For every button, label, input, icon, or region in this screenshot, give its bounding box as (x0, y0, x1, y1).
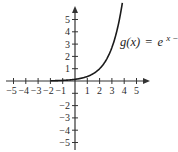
y-tick-label: 1 (65, 63, 70, 74)
y-tick-label: −5 (59, 137, 70, 148)
y-tick-label: 2 (65, 51, 70, 62)
x-tick-label: 5 (134, 85, 139, 96)
x-tick-label: −5 (6, 85, 17, 96)
x-tick-label: −4 (18, 85, 29, 96)
x-tick-label: 3 (109, 85, 114, 96)
x-tick-label: 4 (122, 85, 127, 96)
x-tick-label: 2 (97, 85, 102, 96)
exponential-curve (50, 3, 122, 81)
function-graph: −5−4−3−2−112345−5−4−3−212345 g(x) = e x … (0, 0, 178, 152)
x-tick-label: −2 (43, 85, 54, 96)
y-tick-label: 3 (65, 39, 70, 50)
x-axis-arrow-icon (143, 78, 150, 84)
x-tick-label: −1 (55, 85, 66, 96)
y-tick-label: 5 (65, 14, 70, 25)
y-tick-label: 4 (65, 26, 70, 37)
function-label: g(x) = e x − 2 (120, 33, 178, 49)
y-tick-label: −2 (59, 100, 70, 111)
axes (6, 6, 150, 150)
y-tick-label: −3 (59, 112, 70, 123)
x-tick-label: −3 (31, 85, 42, 96)
x-tick-label: 1 (85, 85, 90, 96)
y-axis-arrow-icon (72, 6, 78, 13)
y-tick-label: −4 (59, 125, 70, 136)
